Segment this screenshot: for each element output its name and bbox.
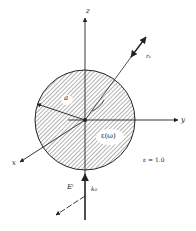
z-axis-label: z — [86, 8, 90, 15]
scattered-direction-label: rₛ — [146, 53, 151, 59]
x-axis-label: x — [12, 160, 16, 167]
origin-dot — [83, 118, 87, 122]
scattered-polarization-arrow — [131, 37, 146, 57]
incident-field-arrow — [56, 196, 85, 215]
radius-label: a — [64, 95, 68, 102]
incident-wavevector-label: k₀ — [91, 186, 97, 192]
surrounding-medium-label: ε = 1.0 — [143, 157, 165, 163]
sphere-scattering-diagram — [0, 0, 196, 231]
incident-field-label: Eⁱ — [67, 184, 74, 191]
permittivity-label: ε(ω) — [101, 133, 116, 140]
y-axis-label: y — [181, 117, 185, 124]
